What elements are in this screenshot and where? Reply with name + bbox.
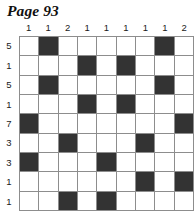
grid-cell-empty[interactable]	[39, 114, 57, 132]
grid-cell-empty[interactable]	[78, 114, 96, 132]
grid-cell-filled[interactable]	[39, 76, 57, 94]
column-clue-4: 1	[77, 21, 96, 35]
row-clue-6: 3	[0, 133, 18, 152]
row-clue-7: 3	[0, 153, 18, 172]
grid-cell-filled[interactable]	[175, 114, 193, 132]
grid-cell-empty[interactable]	[136, 192, 154, 210]
grid-cell-empty[interactable]	[155, 95, 173, 113]
row-clue-8: 1	[0, 172, 18, 191]
grid-cell-filled[interactable]	[136, 134, 154, 152]
grid-cell-filled[interactable]	[155, 76, 173, 94]
grid-cell-empty[interactable]	[175, 134, 193, 152]
grid-cell-empty[interactable]	[39, 95, 57, 113]
grid-cell-empty[interactable]	[78, 153, 96, 171]
grid-cell-empty[interactable]	[117, 192, 135, 210]
grid-cell-filled[interactable]	[78, 95, 96, 113]
grid-cell-filled[interactable]	[97, 192, 115, 210]
grid-cell-empty[interactable]	[59, 153, 77, 171]
grid-cell-empty[interactable]	[39, 192, 57, 210]
grid-cell-empty[interactable]	[97, 172, 115, 190]
grid-cell-empty[interactable]	[20, 37, 38, 55]
grid-cell-empty[interactable]	[39, 134, 57, 152]
grid-cell-empty[interactable]	[97, 114, 115, 132]
grid-cell-filled[interactable]	[117, 56, 135, 74]
grid-cell-empty[interactable]	[20, 76, 38, 94]
column-clue-2: 1	[38, 21, 57, 35]
grid-cell-filled[interactable]	[136, 172, 154, 190]
grid-cell-empty[interactable]	[97, 134, 115, 152]
grid-cell-empty[interactable]	[59, 56, 77, 74]
grid-cell-empty[interactable]	[155, 192, 173, 210]
grid-cell-empty[interactable]	[59, 95, 77, 113]
grid-cell-empty[interactable]	[117, 134, 135, 152]
grid-cell-empty[interactable]	[175, 95, 193, 113]
row-clue-4: 1	[0, 94, 18, 113]
grid-cell-filled[interactable]	[175, 172, 193, 190]
grid-cell-empty[interactable]	[175, 37, 193, 55]
grid-cell-filled[interactable]	[59, 134, 77, 152]
grid-cell-filled[interactable]	[117, 95, 135, 113]
grid-cell-empty[interactable]	[136, 56, 154, 74]
grid-cell-empty[interactable]	[59, 114, 77, 132]
row-clues-column: 515173311	[0, 36, 18, 211]
column-clue-8: 1	[155, 21, 174, 35]
grid-cell-empty[interactable]	[20, 95, 38, 113]
column-clues-row: 112111112	[19, 21, 194, 35]
grid-cell-empty[interactable]	[59, 172, 77, 190]
grid-cell-empty[interactable]	[78, 76, 96, 94]
column-clue-7: 1	[136, 21, 155, 35]
grid-cell-empty[interactable]	[136, 114, 154, 132]
grid-cell-empty[interactable]	[155, 114, 173, 132]
grid-cell-empty[interactable]	[59, 76, 77, 94]
grid-cell-empty[interactable]	[78, 172, 96, 190]
column-clue-1: 1	[19, 21, 38, 35]
grid-cell-empty[interactable]	[155, 56, 173, 74]
grid-cell-empty[interactable]	[97, 95, 115, 113]
grid-cell-empty[interactable]	[97, 37, 115, 55]
grid-cell-filled[interactable]	[155, 37, 173, 55]
grid-cell-empty[interactable]	[175, 153, 193, 171]
row-clue-3: 5	[0, 75, 18, 94]
row-clue-9: 1	[0, 192, 18, 211]
column-clue-5: 1	[97, 21, 116, 35]
grid-cell-filled[interactable]	[39, 37, 57, 55]
grid-cell-empty[interactable]	[136, 37, 154, 55]
grid-cell-empty[interactable]	[136, 76, 154, 94]
page-title: Page 93	[7, 2, 59, 20]
grid-cell-empty[interactable]	[136, 95, 154, 113]
grid-cell-empty[interactable]	[78, 192, 96, 210]
grid-cell-filled[interactable]	[20, 153, 38, 171]
row-clue-1: 5	[0, 36, 18, 55]
puzzle-grid[interactable]	[19, 36, 194, 211]
grid-cell-empty[interactable]	[20, 172, 38, 190]
grid-cell-empty[interactable]	[39, 153, 57, 171]
grid-cell-empty[interactable]	[175, 56, 193, 74]
grid-cell-empty[interactable]	[155, 134, 173, 152]
row-clue-2: 1	[0, 55, 18, 74]
grid-cell-empty[interactable]	[155, 172, 173, 190]
grid-cell-filled[interactable]	[59, 192, 77, 210]
grid-cell-empty[interactable]	[97, 56, 115, 74]
grid-cell-empty[interactable]	[20, 56, 38, 74]
grid-cell-empty[interactable]	[97, 76, 115, 94]
grid-cell-empty[interactable]	[39, 172, 57, 190]
grid-cell-filled[interactable]	[97, 153, 115, 171]
grid-cell-empty[interactable]	[20, 192, 38, 210]
grid-cell-empty[interactable]	[117, 114, 135, 132]
row-clue-5: 7	[0, 114, 18, 133]
grid-cell-empty[interactable]	[117, 172, 135, 190]
grid-cell-empty[interactable]	[59, 37, 77, 55]
grid-cell-empty[interactable]	[78, 134, 96, 152]
grid-cell-empty[interactable]	[136, 153, 154, 171]
grid-cell-empty[interactable]	[39, 56, 57, 74]
grid-cell-empty[interactable]	[117, 37, 135, 55]
grid-cell-empty[interactable]	[78, 37, 96, 55]
grid-cell-empty[interactable]	[175, 192, 193, 210]
grid-cell-empty[interactable]	[117, 76, 135, 94]
grid-cell-filled[interactable]	[78, 56, 96, 74]
grid-cell-empty[interactable]	[155, 153, 173, 171]
grid-cell-empty[interactable]	[175, 76, 193, 94]
grid-cell-filled[interactable]	[20, 114, 38, 132]
grid-cell-empty[interactable]	[117, 153, 135, 171]
grid-cell-empty[interactable]	[20, 134, 38, 152]
